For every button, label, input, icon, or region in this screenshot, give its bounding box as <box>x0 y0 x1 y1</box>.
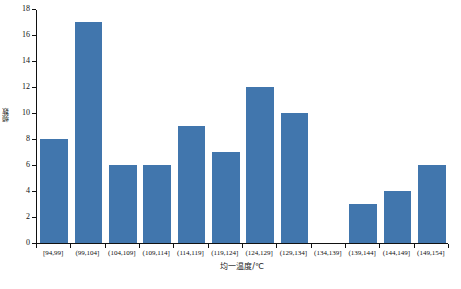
y-axis-tick-label: 0 <box>26 238 30 247</box>
bar <box>109 165 136 243</box>
bar-slot <box>380 10 414 243</box>
bar <box>143 165 170 243</box>
y-axis-tick: 14 <box>32 61 36 62</box>
y-axis-title: 频数 <box>2 108 16 122</box>
bar <box>384 191 411 243</box>
bar <box>40 139 67 243</box>
bar <box>349 204 376 243</box>
bar-slot <box>209 10 243 243</box>
x-axis-title: 均一温度/℃ <box>36 262 448 272</box>
histogram-figure: 频数 024681012141618 [94,99](99,104](104,1… <box>0 0 461 289</box>
y-axis-tick: 10 <box>32 113 36 114</box>
x-axis-tick-labels: [94,99](99,104](104,109](109,114](114,11… <box>36 248 448 259</box>
y-axis-tick: 2 <box>32 217 36 218</box>
y-axis-tick-label: 14 <box>22 56 30 65</box>
y-axis-tick-label: 8 <box>26 134 30 143</box>
y-axis-tick: 4 <box>32 191 36 192</box>
y-axis-tick: 16 <box>32 35 36 36</box>
bar-slot <box>37 10 71 243</box>
y-axis-tick: 8 <box>32 139 36 140</box>
bar-slot <box>243 10 277 243</box>
bar-slot <box>346 10 380 243</box>
y-axis-tick: 6 <box>32 165 36 166</box>
bar <box>281 113 308 243</box>
bar <box>418 165 445 243</box>
y-axis-tick: 18 <box>32 9 36 10</box>
y-axis-tick-label: 12 <box>22 82 30 91</box>
y-axis-tick-label: 2 <box>26 212 30 221</box>
figure-caption <box>36 282 448 289</box>
bar-slot <box>140 10 174 243</box>
y-axis-tick: 12 <box>32 87 36 88</box>
bar-slot <box>106 10 140 243</box>
bar-slot <box>277 10 311 243</box>
y-axis-tick-label: 6 <box>26 160 30 169</box>
bar <box>178 126 205 243</box>
plot-area: 024681012141618 <box>36 10 448 244</box>
bar <box>212 152 239 243</box>
bar-series <box>37 10 448 243</box>
bar-slot <box>71 10 105 243</box>
bar-slot <box>415 10 449 243</box>
bar <box>75 22 102 243</box>
bar-slot <box>174 10 208 243</box>
y-axis-tick-label: 18 <box>22 4 30 13</box>
x-axis-tick-label: (149,154] <box>405 248 457 258</box>
bar-slot <box>312 10 346 243</box>
y-axis-tick-label: 10 <box>22 108 30 117</box>
y-axis-tick-label: 16 <box>22 30 30 39</box>
y-axis-tick-label: 4 <box>26 186 30 195</box>
bar <box>246 87 273 243</box>
